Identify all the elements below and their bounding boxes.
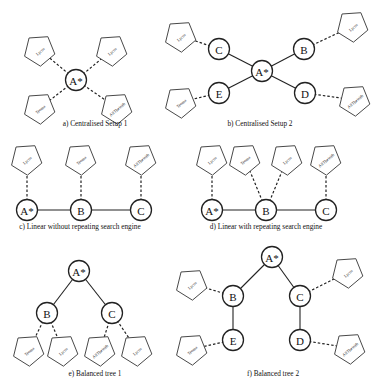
search-engine-lycos: Lycos	[169, 262, 211, 304]
search-engine-alltheweb: AllTheWeb	[77, 328, 119, 370]
panel-caption-a: a) Centralised Setup 1	[63, 119, 128, 128]
nodes-layer: A*A*CBEDA*BCA*BCA*BCA*BCED	[17, 39, 337, 351]
panel-caption-e: e) Balanced tree 1	[69, 369, 122, 378]
node-label: C	[322, 205, 329, 217]
search-engine-lycos: Lycos	[40, 328, 82, 370]
agent-node-e: E	[223, 330, 244, 351]
panel-caption-d: d) Linear with repeating search engine	[210, 222, 322, 231]
search-engine-lycos: Lycos	[330, 4, 372, 46]
search-engine-teoma: Teoma	[158, 80, 200, 122]
agent-node-c: C	[316, 200, 337, 221]
search-engine-lycos: Lycos	[325, 250, 367, 292]
search-engine-teoma: Teoma	[58, 137, 100, 179]
panel-caption-c: c) Linear without repeating search engin…	[19, 222, 140, 231]
agent-node-c: C	[102, 303, 123, 324]
agent-node-a-star: A*	[66, 70, 87, 91]
search-engine-alltheweb: AllTheWeb	[327, 326, 369, 368]
agent-node-a-star: A*	[17, 200, 38, 221]
node-label: A*	[69, 75, 82, 87]
agent-node-a-star: A*	[69, 261, 90, 282]
search-engine-lycos: Lycos	[264, 137, 306, 179]
engines-layer: LycosLycosTeomaAllTheWebLycosLycosTeomaA…	[4, 4, 374, 370]
node-label: B	[43, 308, 50, 320]
agent-node-b: B	[223, 286, 244, 307]
search-engine-lycos: Lycos	[89, 28, 131, 70]
node-label: E	[230, 335, 237, 347]
search-engine-lycos: Lycos	[189, 137, 231, 179]
agent-node-b: B	[71, 200, 92, 221]
panel-caption-b: b) Centralised Setup 2	[227, 119, 292, 128]
search-engine-teoma: Teoma	[169, 327, 211, 369]
agent-node-a-star: A*	[252, 61, 273, 82]
node-label: C	[215, 44, 222, 56]
search-engine-lycos: Lycos	[114, 328, 156, 370]
search-engine-teoma: Teoma	[6, 328, 48, 370]
agent-node-c: C	[209, 39, 230, 60]
search-engine-lycos: Lycos	[17, 28, 59, 70]
node-label: A*	[205, 205, 218, 217]
agent-node-b: B	[256, 200, 277, 221]
agent-node-d: D	[290, 330, 311, 351]
node-label: A*	[20, 205, 33, 217]
agent-node-a-star: A*	[202, 200, 223, 221]
agent-node-d: D	[295, 83, 316, 104]
node-label: E	[216, 88, 223, 100]
agent-node-c: C	[290, 286, 311, 307]
node-label: C	[296, 291, 303, 303]
search-engine-lycos: Lycos	[158, 14, 200, 56]
search-engine-alltheweb: AllTheWeb	[332, 78, 374, 120]
search-engine-alltheweb: AllTheWeb	[118, 137, 160, 179]
agent-node-a-star: A*	[262, 247, 283, 268]
agent-node-b: B	[294, 39, 315, 60]
node-label: B	[77, 205, 84, 217]
search-engine-lycos: Lycos	[4, 137, 46, 179]
panel-caption-f: f) Balanced tree 2	[247, 369, 299, 378]
agent-node-b: B	[37, 303, 58, 324]
node-label: D	[301, 88, 309, 100]
node-label: D	[296, 335, 304, 347]
agent-node-c: C	[131, 200, 152, 221]
node-label: A*	[255, 66, 268, 78]
diagram-canvas: LycosLycosTeomaAllTheWebLycosLycosTeomaA…	[0, 0, 379, 391]
search-engine-teoma: Teoma	[17, 86, 59, 128]
node-label: C	[108, 308, 115, 320]
search-engine-teoma: Teoma	[222, 137, 264, 179]
search-engine-alltheweb: AllTheWeb	[303, 137, 345, 179]
node-label: A*	[72, 266, 85, 278]
node-label: B	[300, 44, 307, 56]
node-label: B	[229, 291, 236, 303]
node-label: A*	[265, 252, 278, 264]
node-label: C	[137, 205, 144, 217]
agent-node-e: E	[209, 83, 230, 104]
node-label: B	[262, 205, 269, 217]
